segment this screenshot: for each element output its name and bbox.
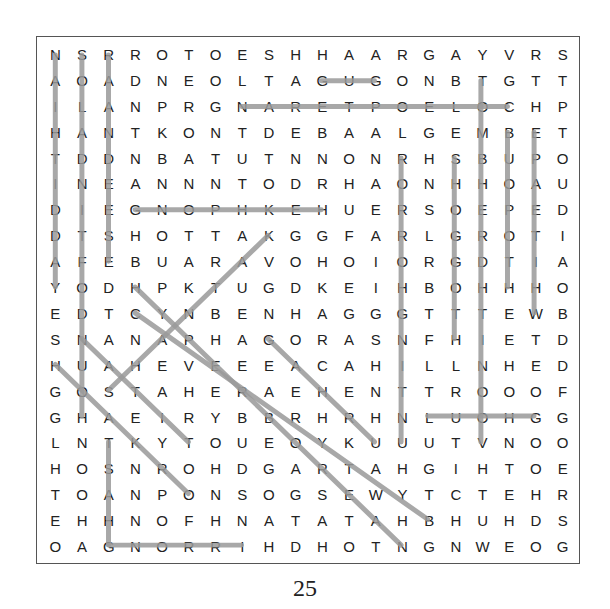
grid-letter: O: [256, 171, 282, 197]
grid-letter: L: [416, 223, 442, 249]
grid-letter: U: [363, 430, 389, 456]
grid-letter: W: [523, 301, 549, 327]
grid-letter: E: [443, 120, 469, 146]
grid-letter: H: [416, 146, 442, 172]
grid-letter: U: [229, 430, 255, 456]
grid-letter: S: [443, 146, 469, 172]
grid-letter: D: [550, 353, 576, 379]
grid-letter: A: [96, 405, 122, 431]
grid-letter: H: [69, 508, 95, 534]
grid-letter: V: [496, 42, 522, 68]
grid-letter: E: [122, 405, 148, 431]
grid-letter: S: [69, 42, 95, 68]
grid-letter: A: [336, 327, 362, 353]
grid-letter: H: [363, 353, 389, 379]
grid-letter: T: [470, 301, 496, 327]
grid-letter: A: [443, 42, 469, 68]
grid-letter: A: [283, 456, 309, 482]
grid-letter: B: [416, 275, 442, 301]
grid-letter: N: [363, 146, 389, 172]
grid-letter: A: [42, 68, 68, 94]
grid-letter: D: [523, 508, 549, 534]
grid-letter: G: [256, 275, 282, 301]
grid-letter: D: [283, 275, 309, 301]
grid-letter: O: [523, 430, 549, 456]
grid-letter: B: [122, 249, 148, 275]
grid-letter: O: [496, 171, 522, 197]
grid-letter: R: [283, 405, 309, 431]
grid-letter: I: [149, 405, 175, 431]
grid-letter: O: [283, 327, 309, 353]
grid-letter: T: [229, 171, 255, 197]
grid-letter: W: [363, 482, 389, 508]
grid-letter: T: [176, 430, 202, 456]
grid-letter: T: [416, 482, 442, 508]
grid-letter: O: [256, 482, 282, 508]
grid-letter: T: [122, 120, 148, 146]
grid-letter: O: [470, 379, 496, 405]
grid-letter: N: [149, 171, 175, 197]
grid-letter: H: [203, 327, 229, 353]
grid-letter: T: [283, 508, 309, 534]
grid-letter: N: [122, 534, 148, 560]
grid-letter: O: [149, 534, 175, 560]
grid-letter: T: [96, 301, 122, 327]
grid-letter: U: [229, 275, 255, 301]
grid-letter: V: [470, 430, 496, 456]
grid-letter: T: [203, 275, 229, 301]
grid-letter: T: [470, 68, 496, 94]
grid-letter: S: [550, 42, 576, 68]
grid-letter: A: [96, 353, 122, 379]
grid-letter: B: [149, 146, 175, 172]
grid-letter: O: [149, 42, 175, 68]
grid-letter: O: [443, 197, 469, 223]
grid-letter: U: [336, 68, 362, 94]
grid-letter: O: [336, 146, 362, 172]
grid-letter: O: [176, 120, 202, 146]
grid-letter: H: [309, 379, 335, 405]
grid-letter: R: [96, 42, 122, 68]
grid-letter: T: [122, 379, 148, 405]
grid-letter: G: [309, 223, 335, 249]
grid-letter: H: [229, 197, 255, 223]
grid-letter: A: [96, 94, 122, 120]
grid-letter: A: [69, 534, 95, 560]
grid-letter: R: [203, 534, 229, 560]
grid-letter: H: [336, 171, 362, 197]
grid-letter: N: [69, 327, 95, 353]
grid-letter: L: [443, 94, 469, 120]
grid-letter: O: [523, 456, 549, 482]
grid-letter: U: [496, 146, 522, 172]
grid-letter: P: [523, 146, 549, 172]
grid-letter: F: [336, 223, 362, 249]
grid-letter: P: [149, 94, 175, 120]
grid-letter: O: [69, 275, 95, 301]
grid-letter: G: [416, 456, 442, 482]
grid-letter: Y: [42, 275, 68, 301]
grid-letter: H: [389, 456, 415, 482]
grid-letter: R: [203, 249, 229, 275]
word-search-puzzle: NSRROTOESHHAARGAYVRSAOADNEOLTAGUGONBTGTT…: [36, 36, 580, 564]
grid-letter: D: [42, 223, 68, 249]
grid-letter: G: [523, 405, 549, 431]
grid-letter: G: [256, 456, 282, 482]
grid-letter: T: [523, 68, 549, 94]
grid-letter: H: [496, 508, 522, 534]
grid-letter: S: [96, 379, 122, 405]
grid-letter: R: [176, 534, 202, 560]
grid-letter: U: [229, 146, 255, 172]
grid-letter: H: [69, 405, 95, 431]
grid-letter: E: [229, 353, 255, 379]
grid-letter: D: [96, 146, 122, 172]
grid-letter: R: [336, 405, 362, 431]
grid-letter: C: [309, 353, 335, 379]
grid-letter: H: [309, 197, 335, 223]
grid-letter: A: [229, 249, 255, 275]
grid-letter: H: [283, 301, 309, 327]
grid-letter: H: [389, 275, 415, 301]
grid-letter: K: [336, 430, 362, 456]
grid-letter: R: [309, 171, 335, 197]
grid-letter: A: [256, 508, 282, 534]
grid-letter: P: [363, 94, 389, 120]
grid-letter: A: [309, 301, 335, 327]
